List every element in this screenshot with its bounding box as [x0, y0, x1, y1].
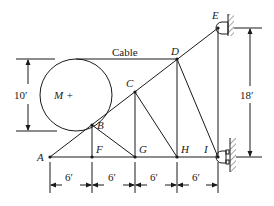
joint-dot-B [90, 123, 93, 126]
joint-dot-F [90, 155, 93, 158]
dim-label-span2: 6′ [108, 171, 116, 183]
joint-dot-G [133, 155, 136, 158]
dim-label-18: 18′ [240, 89, 253, 101]
dim-label-span3: 6′ [150, 171, 158, 183]
joint-dot-H [175, 155, 178, 158]
joint-label-F: F [95, 143, 103, 155]
truss-diagram: A B C D E F G H I M + Cable 10′ 18′ 6′ 6… [0, 0, 274, 206]
joint-dot-E [216, 26, 219, 29]
wall-I-hatch [230, 138, 236, 172]
dim-label-span1: 6′ [65, 171, 73, 183]
roller-bottom [226, 160, 229, 164]
joint-dot-C [133, 90, 136, 93]
joint-label-D: D [170, 45, 179, 57]
joint-label-G: G [139, 143, 147, 155]
joint-dot-A [48, 155, 51, 158]
joint-label-I: I [203, 143, 209, 155]
joint-label-A: A [36, 151, 44, 163]
cable-label: Cable [112, 46, 138, 58]
joint-label-C: C [126, 77, 134, 89]
joint-dot-D [175, 57, 178, 60]
dim-label-span4: 6′ [192, 171, 200, 183]
mass-label: M + [53, 89, 73, 101]
joint-label-B: B [97, 119, 104, 131]
joint-label-H: H [180, 143, 190, 155]
wall-E-hatch [228, 14, 234, 36]
joint-dot-I [216, 155, 219, 158]
joint-label-E: E [211, 9, 219, 21]
dim-label-10: 10′ [14, 89, 27, 101]
roller-top [226, 150, 229, 154]
